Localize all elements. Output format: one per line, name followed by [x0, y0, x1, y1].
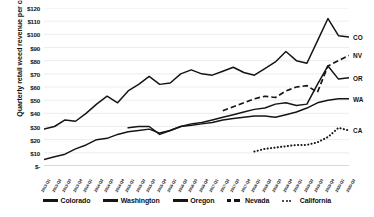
y-tick-label: $110: [14, 18, 40, 25]
chart-legend: ColoradoWashingtonOregonNevadaCalifornia: [0, 197, 374, 204]
series-line-wa: [44, 99, 349, 160]
legend-item-washington[interactable]: Washington: [103, 197, 159, 204]
x-tick-label: 2013-Q4: [71, 178, 83, 193]
legend-label: Nevada: [245, 197, 269, 204]
x-tick-label: 2017-Q3: [229, 178, 241, 193]
x-tick-label: 2014-Q2: [92, 178, 104, 193]
y-tick-label: $40: [14, 110, 40, 117]
legend-label: Colorado: [60, 197, 90, 204]
series-label-wa: WA: [353, 95, 364, 102]
x-tick-label: 2013-Q1: [40, 178, 52, 193]
y-tick-label: $10: [14, 149, 40, 156]
y-tick-label: $90: [14, 44, 40, 51]
legend-swatch-icon: [103, 199, 118, 202]
y-tick-label: $100: [14, 31, 40, 38]
x-tick-label: 2018-Q3: [271, 178, 283, 193]
x-tick-label: 2019-Q3: [313, 178, 325, 193]
chart-container: Quarterly retail weed revenue per capita…: [0, 0, 374, 217]
x-tick-label: 2016-Q3: [187, 178, 199, 193]
x-tick-label: 2014-Q1: [82, 178, 94, 193]
plot-area: [44, 8, 349, 166]
series-label-ca: CA: [353, 127, 362, 134]
legend-item-colorado[interactable]: Colorado: [43, 197, 90, 204]
x-tick-label: 2015-Q1: [124, 178, 136, 193]
series-label-nv: NV: [353, 52, 362, 59]
x-tick-label: 2018-Q1: [250, 178, 262, 193]
x-tick-label: 2019-Q1: [292, 178, 304, 193]
y-tick-label: $-: [14, 163, 40, 170]
x-tick-label: 2020-Q1: [334, 178, 346, 193]
legend-item-nevada[interactable]: Nevada: [227, 197, 269, 204]
y-tick-label: $70: [14, 70, 40, 77]
y-tick-label: $120: [14, 5, 40, 12]
y-tick-label: $30: [14, 123, 40, 130]
x-tick-label: 2016-Q1: [166, 178, 178, 193]
x-tick-label: 2015-Q3: [145, 178, 157, 193]
x-tick-label: 2014-Q3: [103, 178, 115, 193]
legend-swatch-icon: [227, 199, 242, 202]
x-tick-label: 2013-Q3: [61, 178, 73, 193]
series-svg: [44, 8, 349, 166]
y-tick-label: $20: [14, 136, 40, 143]
y-tick-label: $60: [14, 84, 40, 91]
legend-label: California: [300, 197, 331, 204]
series-label-or: OR: [353, 74, 363, 81]
legend-swatch-icon: [173, 199, 188, 202]
y-axis-tick-labels: $120$110$100$90$80$70$60$50$40$30$20$10$…: [10, 0, 40, 175]
y-tick-label: $50: [14, 97, 40, 104]
legend-label: Washington: [121, 197, 160, 204]
x-tick-label: 2020-Q2: [345, 178, 357, 193]
legend-swatch-icon: [282, 199, 297, 202]
y-tick-label: $80: [14, 57, 40, 64]
x-axis-tick-labels: 2013-Q12013-Q22013-Q32013-Q42014-Q12014-…: [44, 167, 349, 193]
legend-label: Oregon: [190, 197, 214, 204]
legend-item-california[interactable]: California: [282, 197, 331, 204]
x-tick-label: 2017-Q1: [208, 178, 220, 193]
series-label-co: CO: [353, 33, 363, 40]
legend-swatch-icon: [43, 199, 58, 202]
x-tick-label: 2013-Q2: [50, 178, 62, 193]
legend-item-oregon[interactable]: Oregon: [173, 197, 215, 204]
